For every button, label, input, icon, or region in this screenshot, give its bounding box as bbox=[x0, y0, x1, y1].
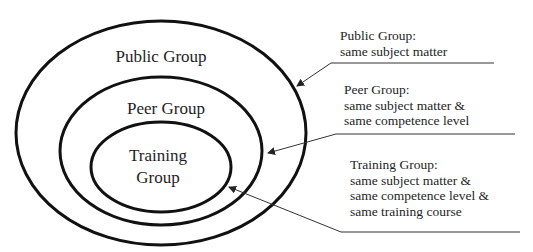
training-group-note-line-2: same competence level & bbox=[350, 188, 489, 204]
training-group-label-line-1: Training bbox=[129, 145, 187, 167]
peer-group-label-text: Peer Group bbox=[127, 99, 205, 118]
public-group-label: Public Group bbox=[115, 48, 206, 65]
peer-group-note-line-2: same competence level bbox=[344, 113, 469, 129]
peer-group-note-title: Peer Group: bbox=[344, 82, 469, 98]
training-group-note: Training Group: same subject matter & sa… bbox=[350, 157, 489, 219]
training-group-note-line-1: same subject matter & bbox=[350, 173, 489, 189]
peer-group-note: Peer Group: same subject matter & same c… bbox=[344, 82, 469, 129]
public-group-note-title: Public Group: bbox=[340, 28, 447, 44]
training-group-label-line-2: Group bbox=[129, 167, 187, 189]
training-group-label: Training Group bbox=[129, 145, 187, 189]
public-group-label-text: Public Group bbox=[115, 47, 206, 66]
training-group-note-line-3: same training course bbox=[350, 204, 489, 220]
public-group-note: Public Group: same subject matter bbox=[340, 28, 447, 59]
peer-group-note-line-1: same subject matter & bbox=[344, 98, 469, 114]
public-group-note-line-1: same subject matter bbox=[340, 44, 447, 60]
peer-group-label: Peer Group bbox=[127, 100, 205, 117]
training-group-note-title: Training Group: bbox=[350, 157, 489, 173]
